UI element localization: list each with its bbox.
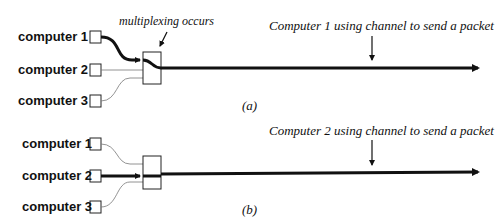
computer-3-box-a (90, 95, 101, 107)
computer-1-label-b: computer 1 (22, 136, 92, 151)
multiplexer-box-b (143, 156, 161, 189)
shared-channel-b (161, 172, 478, 174)
panel-a (90, 31, 478, 107)
computer-1-box-a (90, 31, 101, 43)
channel-annotation-a: Computer 1 using channel to send a packe… (269, 18, 494, 34)
mux-pointer-arrow-a (160, 32, 167, 46)
link-3-b (101, 182, 143, 207)
computer-2-label-a: computer 2 (18, 62, 88, 77)
computer-1-label-a: computer 1 (18, 29, 88, 44)
channel-annotation-b: Computer 2 using channel to send a packe… (269, 123, 494, 139)
computer-2-box-a (90, 64, 101, 76)
panel-b (90, 138, 478, 213)
caption-b: (b) (242, 202, 257, 218)
link-3-a (101, 78, 143, 101)
link-1-b (101, 144, 143, 164)
active-path-a (101, 37, 140, 60)
computer-3-label-b: computer 3 (22, 199, 92, 214)
computer-2-label-b: computer 2 (22, 168, 92, 183)
computer-3-label-a: computer 3 (18, 93, 88, 108)
caption-a: (a) (242, 98, 257, 114)
mux-annotation: multiplexing occurs (119, 14, 214, 29)
